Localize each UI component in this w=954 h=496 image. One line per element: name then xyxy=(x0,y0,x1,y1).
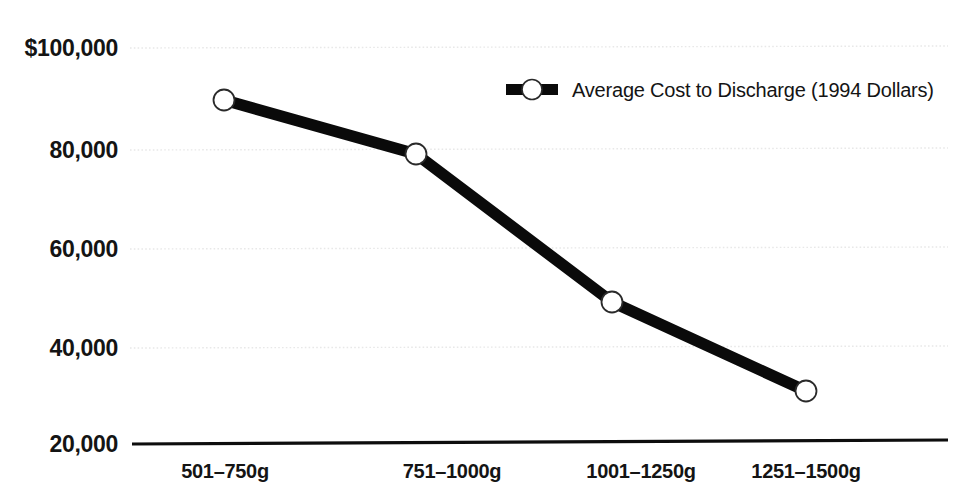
data-point-1251-1500g[interactable] xyxy=(796,381,817,402)
y-tick-label-100000: $100,000 xyxy=(24,35,118,61)
y-tick-label-40000: 40,000 xyxy=(49,335,118,361)
chart-figure: $100,000 80,000 60,000 40,000 20,000 501… xyxy=(0,0,954,496)
x-tick-label-1251-1500g: 1251–1500g xyxy=(751,460,860,482)
x-tick-label-751-1000g: 751–1000g xyxy=(403,460,502,482)
x-tick-label-1001-1250g: 1001–1250g xyxy=(586,460,695,482)
y-tick-label-60000: 60,000 xyxy=(49,236,118,262)
y-tick-label-80000: 80,000 xyxy=(49,137,118,163)
data-point-751-1000g[interactable] xyxy=(406,144,427,165)
line-chart-canvas: $100,000 80,000 60,000 40,000 20,000 501… xyxy=(0,0,954,496)
legend-item-label: Average Cost to Discharge (1994 Dollars) xyxy=(572,79,934,101)
legend-marker-circle-icon xyxy=(522,80,542,100)
data-point-501-750g[interactable] xyxy=(214,90,235,111)
y-tick-label-20000: 20,000 xyxy=(49,431,118,457)
data-point-1001-1250g[interactable] xyxy=(602,292,623,313)
x-tick-label-501-750g: 501–750g xyxy=(181,460,269,482)
